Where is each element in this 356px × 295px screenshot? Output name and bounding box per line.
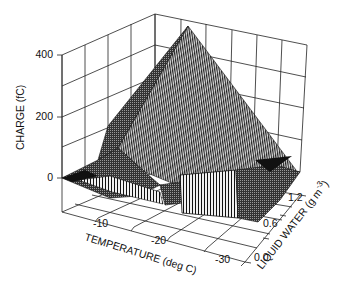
- x-tick--10: -10: [93, 217, 108, 229]
- x-tick--20: -20: [151, 234, 166, 246]
- z-tick-0: 0: [47, 171, 53, 183]
- surface-mesh: [62, 26, 300, 222]
- x-tick--30: -30: [215, 253, 230, 265]
- z-axis-label: CHARGE (fC): [14, 85, 26, 150]
- x-axis-label: TEMPERATURE (deg C): [83, 230, 198, 276]
- y-tick-1.2: 1.2: [288, 191, 303, 203]
- z-tick-400: 400: [35, 48, 53, 60]
- surface-chart: 400 200 0 CHARGE (fC) -10 -20 -30 TEMPER…: [0, 0, 356, 295]
- z-tick-200: 200: [35, 110, 53, 122]
- y-tick-0.6: 0.6: [263, 217, 278, 229]
- z-axis: [57, 55, 62, 212]
